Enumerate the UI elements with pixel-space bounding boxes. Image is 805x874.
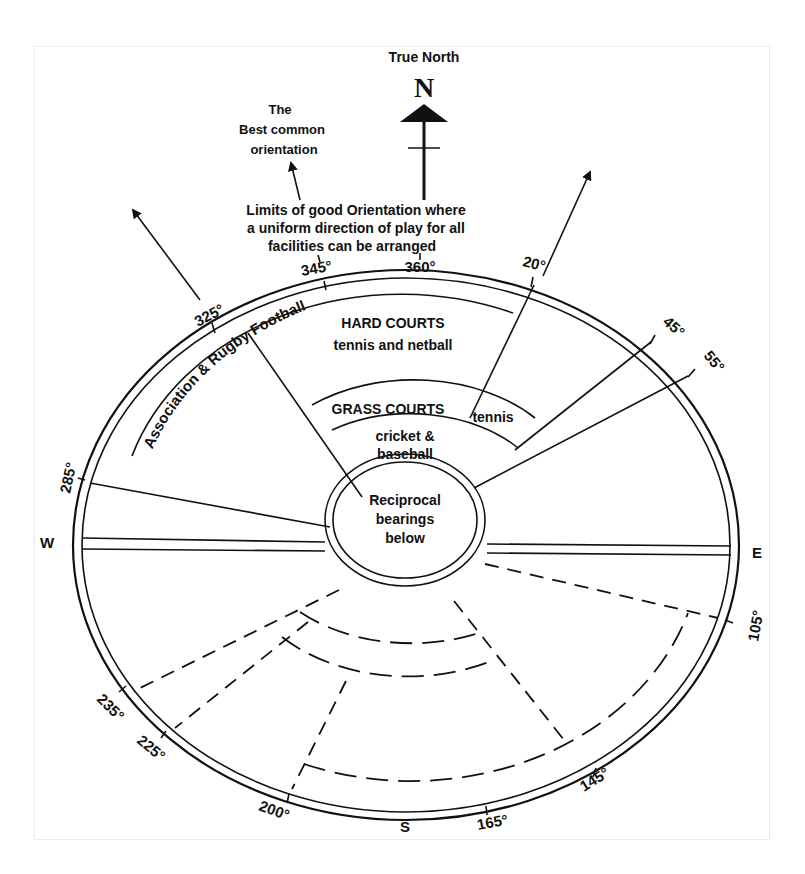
reciprocal-line-225 (175, 622, 308, 728)
tick-20 (531, 277, 533, 287)
bearing-225: 225° (134, 731, 169, 764)
grass-courts-subtitle: tennis (472, 409, 513, 425)
best-common-orientation-note: The Best common orientation (239, 102, 325, 200)
svg-text:orientation: orientation (250, 142, 317, 157)
radial-line-55 (474, 376, 688, 488)
east-line-upper (487, 544, 731, 546)
east-line-lower (487, 553, 731, 555)
tick-45 (650, 335, 655, 344)
radial-line-285 (90, 483, 330, 527)
reciprocal-grass-arc (300, 612, 476, 643)
north-letter: N (414, 72, 434, 103)
svg-text:facilities can be arranged: facilities can be arranged (268, 238, 436, 254)
center-label-1: Reciprocal (369, 492, 441, 508)
center-label-2: bearings (376, 511, 435, 527)
reciprocal-line-145 (454, 601, 568, 745)
football-zone-label: Association & Rugby Football (140, 297, 308, 451)
svg-text:Best common: Best common (239, 122, 325, 137)
svg-text:Limits of good Orientation whe: Limits of good Orientation where (246, 202, 466, 218)
hard-courts-subtitle: tennis and netball (333, 337, 452, 353)
bearing-20: 20° (521, 252, 547, 274)
cardinal-west: W (40, 534, 55, 551)
bearing-45: 45° (660, 313, 688, 341)
bearing-235: 235° (94, 690, 128, 724)
reciprocal-line-235 (136, 590, 339, 690)
limits-of-orientation-note: Limits of good Orientation where a unifo… (246, 202, 466, 254)
bearing-55: 55° (701, 347, 729, 375)
best-orientation-arrow-icon (291, 163, 300, 200)
svg-text:The: The (268, 102, 291, 117)
reciprocal-cricket-arc (282, 637, 494, 676)
cardinal-east: E (752, 544, 762, 561)
bearing-105: 105° (744, 609, 766, 643)
bearing-285: 285° (56, 461, 79, 495)
true-north-label: True North (389, 49, 460, 65)
north-arrowhead-icon (400, 104, 448, 122)
bearing-345: 345° (300, 257, 334, 279)
cardinal-south: S (400, 818, 410, 835)
cricket-label: cricket & (375, 428, 434, 444)
west-line-upper (82, 538, 325, 542)
grass-courts-title: GRASS COURTS (332, 401, 445, 417)
true-north-indicator: True North N (389, 49, 460, 200)
center-label-3: below (385, 530, 425, 546)
svg-text:a uniform direction of play fo: a uniform direction of play for all (247, 220, 465, 236)
reciprocal-line-105 (485, 564, 718, 618)
tick-345 (324, 281, 326, 290)
bearing-145: 145° (577, 764, 612, 795)
tick-55 (688, 369, 695, 377)
limit-arrow-325-icon (133, 210, 200, 300)
radial-line-45 (515, 342, 651, 450)
hard-courts-title: HARD COURTS (341, 315, 444, 331)
orientation-diagram: True North N The Best common orientation… (0, 0, 805, 874)
limit-arrow-20-icon (543, 172, 590, 276)
bearing-360: 360° (404, 258, 435, 275)
west-line-lower (82, 549, 325, 551)
